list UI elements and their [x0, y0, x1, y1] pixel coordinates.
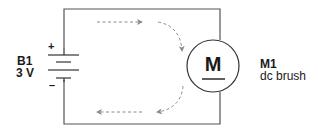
battery-negative-sign: –	[49, 79, 55, 91]
wire-top	[64, 9, 220, 48]
arrow-bottom-curved	[158, 86, 183, 112]
battery-symbol	[48, 48, 79, 82]
arrow-top-curved	[158, 22, 182, 50]
battery-positive-sign: +	[48, 40, 54, 52]
motor-type-label: dc brush	[260, 70, 306, 82]
motor-symbol-letter: M	[200, 54, 226, 74]
current-flow-arrows	[97, 22, 183, 112]
battery-voltage-label: 3 V	[16, 67, 34, 79]
